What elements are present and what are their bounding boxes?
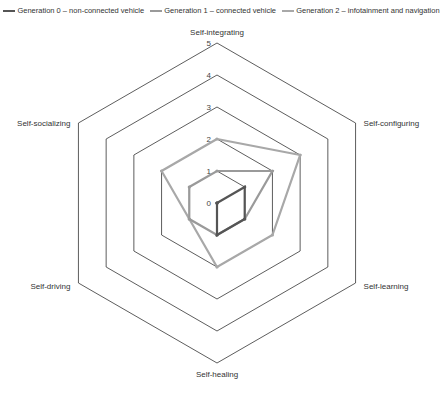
data-point bbox=[160, 169, 163, 172]
data-point bbox=[271, 233, 274, 236]
data-point bbox=[215, 265, 218, 268]
axis-label: Self-learning bbox=[364, 282, 409, 291]
axis-label: Self-driving bbox=[30, 282, 70, 291]
data-point bbox=[243, 185, 246, 188]
series-line bbox=[217, 187, 245, 235]
radar-chart: Generation 0 – non-connected vehicle Gen… bbox=[0, 0, 443, 393]
data-point bbox=[299, 153, 302, 156]
data-point bbox=[215, 137, 218, 140]
series-line bbox=[162, 139, 301, 267]
data-point bbox=[215, 201, 218, 204]
data-point bbox=[215, 169, 218, 172]
axis-label: Self-socializing bbox=[17, 119, 70, 128]
tick-label: 5 bbox=[207, 39, 212, 48]
tick-label: 3 bbox=[207, 103, 212, 112]
axis-label: Self-configuring bbox=[364, 119, 420, 128]
series-line bbox=[189, 171, 272, 235]
data-point bbox=[215, 233, 218, 236]
plot-area: 012345Self-integratingSelf-configuringSe… bbox=[0, 0, 443, 393]
data-point bbox=[188, 185, 191, 188]
tick-label: 0 bbox=[207, 199, 212, 208]
axis-label: Self-healing bbox=[196, 370, 238, 379]
data-point bbox=[188, 217, 191, 220]
data-point bbox=[243, 217, 246, 220]
tick-label: 4 bbox=[207, 71, 212, 80]
data-point bbox=[271, 169, 274, 172]
axis-label: Self-integrating bbox=[190, 28, 244, 37]
